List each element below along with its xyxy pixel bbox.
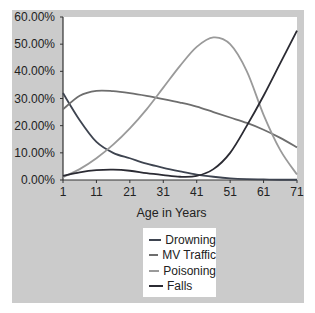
legend-item-mv-traffic: MV Traffic: [149, 248, 216, 264]
legend-label: Drowning: [165, 233, 216, 247]
y-tick-label: 40.00%: [14, 64, 55, 78]
legend-swatch-icon: [149, 270, 159, 272]
x-tick-label: 41: [190, 185, 204, 199]
x-axis: 111213141516171: [60, 180, 304, 199]
y-tick-label: 20.00%: [14, 119, 55, 133]
legend-label: Falls: [167, 279, 192, 293]
legend: Drowning MV Traffic Poisoning Falls: [143, 228, 216, 297]
x-tick-label: 31: [157, 185, 171, 199]
x-tick-label: 51: [223, 185, 237, 199]
x-tick-label: 21: [123, 185, 137, 199]
y-tick-label: 50.00%: [14, 37, 55, 51]
legend-item-falls: Falls: [149, 279, 216, 295]
x-tick-label: 61: [257, 185, 271, 199]
legend-item-poisoning: Poisoning: [149, 263, 216, 279]
y-axis: 0.00%10.00%20.00%30.00%40.00%50.00%60.00…: [14, 10, 63, 187]
x-tick-label: 11: [90, 185, 103, 199]
legend-label: MV Traffic: [162, 248, 216, 262]
x-tick-label: 71: [290, 185, 304, 199]
legend-swatch-icon: [149, 239, 161, 241]
x-axis-label: Age in Years: [0, 206, 315, 220]
legend-item-drowning: Drowning: [149, 232, 216, 248]
y-tick-label: 60.00%: [14, 10, 55, 24]
legend-label: Poisoning: [163, 264, 216, 278]
y-tick-label: 0.00%: [21, 173, 55, 187]
y-tick-label: 10.00%: [14, 146, 55, 160]
legend-swatch-icon: [149, 285, 163, 287]
y-tick-label: 30.00%: [14, 92, 55, 106]
x-tick-label: 1: [60, 185, 67, 199]
legend-swatch-icon: [149, 254, 158, 256]
